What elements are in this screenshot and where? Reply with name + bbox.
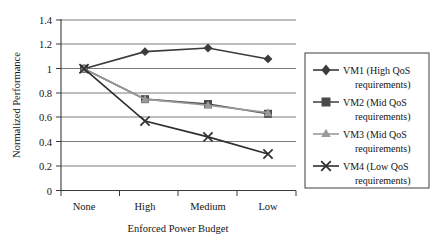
legend-label-vm2-line2: requirements) (355, 111, 411, 123)
legend-label-vm2-line1: VM2 (Mid QoS (343, 97, 407, 109)
legend-label-vm3-line2: requirements) (355, 143, 411, 155)
legend-label-vm4-line2: requirements) (355, 175, 411, 187)
chart-figure: 1.4 1.2 1 0.8 0.6 0.4 0.2 0 Normalized P… (0, 0, 433, 248)
x-tick-label-none: None (73, 201, 96, 212)
y-tick-label-1.4: 1.4 (39, 15, 53, 26)
legend-label-vm3-line1: VM3 (Mid QoS (343, 129, 407, 141)
y-tick-label-0.4: 0.4 (39, 137, 53, 148)
line-chart-svg: 1.4 1.2 1 0.8 0.6 0.4 0.2 0 Normalized P… (0, 0, 433, 248)
square-marker (322, 98, 331, 107)
x-tick-label-high: High (135, 201, 157, 212)
x-tick-label-low: Low (258, 201, 278, 212)
legend-label-vm1-line2: requirements) (355, 79, 411, 91)
y-tick-label-0.2: 0.2 (39, 161, 52, 172)
x-axis-title: Enforced Power Budget (128, 223, 229, 234)
y-axis-title: Normalized Performance (11, 52, 22, 158)
y-tick-label-1.2: 1.2 (39, 39, 52, 50)
y-tick-label-1: 1 (47, 64, 52, 75)
legend-label-vm1-line1: VM1 (High QoS (343, 65, 410, 77)
y-tick-label-0: 0 (47, 186, 52, 197)
x-tick-label-medium: Medium (190, 201, 226, 212)
y-tick-label-0.6: 0.6 (39, 112, 52, 123)
chart-legend: VM1 (High QoS requirements) VM2 (Mid QoS… (305, 53, 429, 188)
y-tick-label-0.8: 0.8 (39, 88, 52, 99)
legend-label-vm4-line1: VM4 (Low QoS (343, 161, 409, 173)
